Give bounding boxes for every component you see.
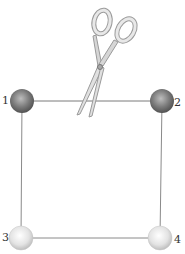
sphere-3-label: 3 [2,232,9,243]
string-1-3 [21,101,22,238]
sphere-4 [148,226,172,250]
square-sphere-diagram [0,0,185,254]
sphere-4-label: 4 [174,234,181,245]
sphere-1-label: 1 [2,95,9,106]
sphere-1 [10,89,34,113]
scissors-icon [77,6,142,117]
sphere-2-label: 2 [174,97,181,108]
string-2-4 [160,101,162,238]
sphere-2 [150,89,174,113]
sphere-3 [9,226,33,250]
